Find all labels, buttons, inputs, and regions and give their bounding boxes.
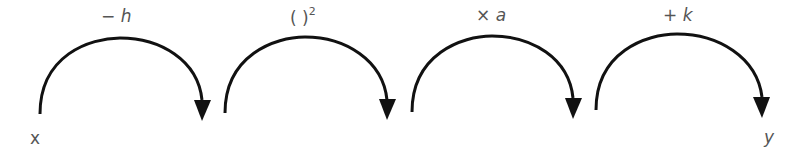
step-3-op: ×: [476, 5, 490, 25]
arrow-step-1: [40, 38, 211, 121]
arrow-step-3: [412, 36, 582, 119]
step-2-op: ( ): [290, 8, 309, 28]
arrow-step-4: [596, 34, 770, 118]
step-4-label: + k: [663, 7, 693, 24]
step-4-op: +: [663, 5, 677, 25]
step-2-label: ( )2: [290, 8, 316, 27]
step-1-label: − h: [101, 8, 131, 25]
output-y-label: y: [764, 129, 774, 146]
step-4-var: k: [683, 5, 693, 25]
step-3-var: a: [496, 5, 506, 25]
input-x-label: x: [30, 130, 40, 147]
step-1-var: h: [121, 6, 132, 26]
arrow-step-2: [225, 37, 396, 120]
step-1-op: −: [101, 6, 115, 26]
step-2-exponent: 2: [309, 5, 316, 18]
step-3-label: × a: [476, 7, 506, 24]
